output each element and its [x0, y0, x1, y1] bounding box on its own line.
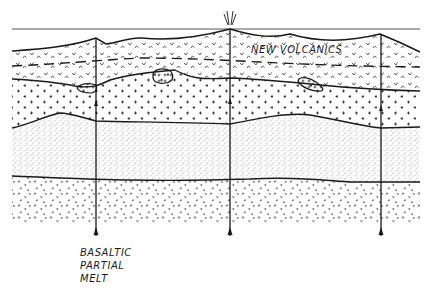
new-volcanics-label: NEW VOLCANICS — [251, 45, 342, 55]
melt-label-line-3: MELT — [80, 272, 132, 285]
melt-label-line-2: PARTIAL — [80, 259, 132, 272]
lens-body-center — [153, 69, 173, 84]
arrow-up-icon — [94, 227, 99, 235]
cross-section-diagram: NEW VOLCANICS BASALTIC PARTIAL MELT — [0, 0, 438, 297]
arrow-up-icon — [228, 227, 233, 235]
vent-eruption-icon — [224, 11, 236, 25]
melt-label-line-1: BASALTIC — [80, 246, 132, 259]
basaltic-partial-melt-label: BASALTIC PARTIAL MELT — [80, 246, 132, 285]
arrow-up-icon — [379, 227, 384, 235]
cross-section-svg — [0, 0, 438, 297]
coarse-dash-layer — [12, 176, 420, 222]
